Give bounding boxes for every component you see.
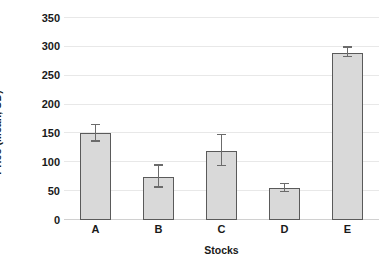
plot-area (64, 18, 379, 220)
error-bar (158, 166, 160, 188)
error-bar-cap-bottom (217, 165, 226, 167)
error-bar-cap-top (343, 46, 352, 48)
x-axis-tick-labels: ABCDE (64, 224, 379, 240)
bar[interactable] (80, 133, 111, 220)
error-bar-cap-top (280, 183, 289, 185)
bar-group[interactable] (332, 18, 363, 220)
bar[interactable] (269, 188, 300, 220)
bar-chart: Price (Mean, SD) 050100150200250300350 A… (0, 0, 385, 265)
bar-group[interactable] (269, 18, 300, 220)
x-axis-title: Stocks (64, 244, 379, 256)
bar-group[interactable] (143, 18, 174, 220)
bars-layer (64, 18, 379, 220)
x-tick-label: C (190, 224, 253, 235)
y-tick-label: 150 (22, 128, 60, 139)
y-tick-label: 250 (22, 70, 60, 81)
x-tick-label: B (127, 224, 190, 235)
x-tick-label: A (64, 224, 127, 235)
y-axis-title-label: Price (Mean, SD) (0, 90, 3, 174)
error-bar-cap-top (217, 134, 226, 136)
error-bar-cap-top (154, 164, 163, 166)
y-tick-label: 350 (22, 13, 60, 24)
y-axis-title: Price (Mean, SD) (0, 0, 22, 265)
y-tick-label: 100 (22, 157, 60, 168)
x-tick-label: E (316, 224, 379, 235)
x-tick-label: D (253, 224, 316, 235)
bar-group[interactable] (206, 18, 237, 220)
error-bar-cap-bottom (280, 191, 289, 193)
error-bar-cap-bottom (91, 140, 100, 142)
y-axis-tick-labels: 050100150200250300350 (20, 0, 60, 265)
y-tick-label: 300 (22, 41, 60, 52)
y-tick-label: 0 (22, 215, 60, 226)
y-tick-label: 50 (22, 186, 60, 197)
error-bar-cap-bottom (343, 56, 352, 58)
error-bar (221, 135, 223, 166)
error-bar-cap-top (91, 124, 100, 126)
error-bar-cap-bottom (154, 186, 163, 188)
bar[interactable] (332, 53, 363, 220)
y-tick-label: 200 (22, 99, 60, 110)
bar-group[interactable] (80, 18, 111, 220)
